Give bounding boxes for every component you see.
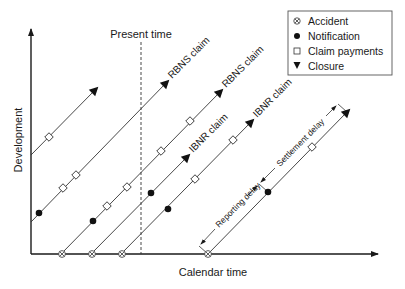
claim-label-rbns-1: RBNS claim (166, 35, 212, 81)
claim-line-6 (208, 112, 347, 254)
claim-label-rbns-2: RBNS claim (220, 44, 266, 90)
claim-label-ibnr-1: IBNR claim (187, 111, 230, 154)
notification-icon (36, 210, 43, 217)
payment-icon (103, 202, 111, 210)
claim-label-ibnr-2: IBNR claim (251, 76, 294, 119)
present-time-label: Present time (110, 28, 172, 40)
legend-label: Accident (308, 15, 348, 27)
notification-icon (265, 189, 272, 196)
notification-icon (165, 206, 172, 213)
claim-line-2 (31, 83, 166, 222)
legend-label: Notification (308, 30, 360, 42)
settlement-delay-arrow-right (326, 106, 336, 116)
accident-icon (119, 251, 126, 258)
y-axis-label: Development (12, 108, 24, 173)
legend-label: Claim payments (308, 45, 383, 57)
notification-icon (90, 218, 97, 225)
notification-icon (294, 33, 300, 39)
accident-icon (294, 18, 300, 24)
legend-label: Closure (308, 60, 344, 72)
settlement-delay-arrow-left (261, 168, 275, 182)
payment-icon (186, 117, 194, 125)
accident-icon (89, 251, 96, 258)
payment-icon (59, 184, 67, 192)
accident-icon (59, 251, 66, 258)
payment-icon (157, 147, 165, 155)
reporting-delay-label: Reporting delay (213, 180, 263, 230)
payment-icon (308, 143, 316, 151)
claims-development-diagram: Reporting delay Settlement delay RBNS cl… (0, 0, 405, 289)
notification-icon (148, 190, 155, 197)
legend: Accident Notification Claim payments Clo… (288, 11, 392, 75)
settlement-delay-label: Settlement delay (274, 116, 326, 168)
claim-line-1 (31, 90, 95, 155)
payment-icon (294, 48, 300, 54)
reporting-delay-arrow-left (201, 229, 215, 244)
accident-icon (205, 251, 212, 258)
x-axis-label: Calendar time (179, 266, 247, 278)
legend-item-payment: Claim payments (294, 45, 383, 57)
claim-lines (31, 83, 347, 254)
